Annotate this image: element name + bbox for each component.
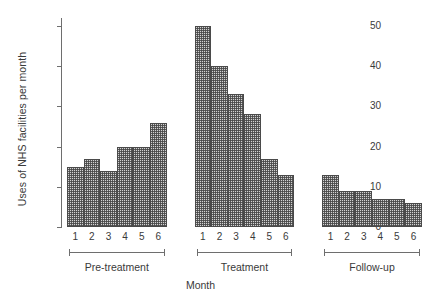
bar [211, 66, 228, 227]
bracket-cap-left [197, 249, 198, 256]
y-axis-tick-label: 30 [361, 100, 381, 111]
bar [100, 171, 117, 227]
group-bracket [69, 249, 165, 256]
x-axis-tick-label: 3 [229, 231, 243, 242]
bracket-line [69, 252, 165, 253]
bar [339, 191, 356, 227]
x-axis-tick-label: 6 [279, 231, 293, 242]
group-bracket [324, 249, 420, 256]
group-label: Follow-up [322, 261, 422, 273]
bracket-cap-right [419, 249, 420, 256]
bracket-cap-left [324, 249, 325, 256]
x-axis-tick-label: 5 [135, 231, 149, 242]
bar [261, 159, 278, 227]
bar [67, 167, 84, 227]
bar [84, 159, 101, 227]
group-baseline [195, 226, 295, 227]
y-axis-tick [57, 227, 62, 228]
x-axis-title: Month [0, 279, 401, 291]
bracket-cap-right [164, 249, 165, 256]
x-axis-tick-label: 2 [340, 231, 354, 242]
bracket-line [324, 252, 420, 253]
group-label: Pre-treatment [67, 261, 167, 273]
x-axis-tick-label: 3 [357, 231, 371, 242]
bar [278, 175, 295, 227]
y-axis-tick [57, 147, 62, 148]
y-axis-title: Uses of NHS facilities per month [16, 14, 32, 244]
bar [133, 147, 150, 227]
x-axis-tick-label: 1 [68, 231, 82, 242]
bracket-cap-right [291, 249, 292, 256]
group-label: Treatment [195, 261, 295, 273]
bar [228, 94, 245, 227]
bar [117, 147, 134, 227]
x-axis-tick-label: 2 [85, 231, 99, 242]
bracket-cap-left [69, 249, 70, 256]
x-axis-tick-label: 5 [390, 231, 404, 242]
bar [195, 26, 212, 227]
x-axis-tick-label: 2 [213, 231, 227, 242]
x-axis-tick-label: 1 [196, 231, 210, 242]
y-axis-tick [57, 26, 62, 27]
y-axis-tick [57, 66, 62, 67]
x-axis-tick-label: 6 [151, 231, 165, 242]
bar [405, 203, 422, 227]
group-baseline [67, 226, 167, 227]
x-axis-tick-label: 6 [407, 231, 421, 242]
bracket-line [197, 252, 293, 253]
bar [150, 123, 167, 228]
y-axis-tick-label: 40 [361, 60, 381, 71]
x-axis-tick-label: 3 [102, 231, 116, 242]
y-axis-tick-label: 50 [361, 20, 381, 31]
x-axis-tick-label: 5 [262, 231, 276, 242]
bar [244, 114, 261, 227]
bar [355, 191, 372, 227]
x-axis-tick-label: 4 [373, 231, 387, 242]
group-bracket [197, 249, 293, 256]
group-baseline [322, 226, 422, 227]
y-axis-tick [57, 187, 62, 188]
x-axis-tick-label: 1 [324, 231, 338, 242]
x-axis-tick-label: 4 [118, 231, 132, 242]
plot-area: 01020304050 [61, 18, 389, 227]
y-axis-line [61, 18, 62, 227]
bar [372, 199, 389, 227]
x-axis-tick-label: 4 [246, 231, 260, 242]
y-axis-tick [57, 106, 62, 107]
bar [322, 175, 339, 227]
y-axis-tick-label: 20 [361, 141, 381, 152]
bar [389, 199, 406, 227]
